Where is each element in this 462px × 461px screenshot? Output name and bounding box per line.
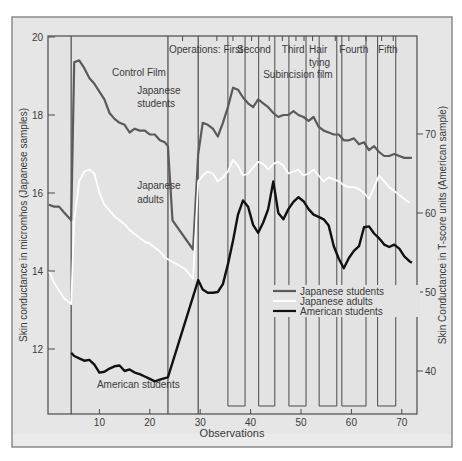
y-axis-label-right: Skin Conductance in T-score units (Ameri… — [437, 106, 448, 344]
annotation-label: Third — [282, 44, 305, 55]
y-tick-label-left: 12 — [32, 344, 44, 355]
annotation-label: students — [137, 98, 175, 109]
y-tick-label-left: 14 — [32, 266, 44, 277]
legend: Japanese studentsJapanese adultsAmerican… — [270, 285, 420, 317]
x-tick-label: 20 — [144, 417, 156, 428]
legend-label: American students — [300, 306, 383, 317]
y-tick-label-right: 40 — [425, 366, 437, 377]
x-tick-label: 70 — [396, 417, 408, 428]
annotation-label: adults — [137, 194, 164, 205]
y-tick-label-left: 16 — [32, 188, 44, 199]
chart-figure: Control FilmJapanesestudentsJapaneseadul… — [0, 0, 462, 461]
annotation-label: Second — [237, 44, 271, 55]
y-tick-label-right: 50 — [425, 287, 437, 298]
annotation-label: tying — [309, 57, 330, 68]
x-axis-label: Observations — [200, 427, 265, 439]
annotation-label: Fifth — [378, 44, 397, 55]
x-tick-label: 50 — [295, 417, 307, 428]
annotation-label: Japanese — [137, 85, 181, 96]
y-tick-label-left: 18 — [32, 110, 44, 121]
annotation-label: Subincision film — [263, 69, 332, 80]
annotation-label: Japanese — [137, 180, 181, 191]
y-tick-label-left: 20 — [32, 32, 44, 43]
annotation-label: American students — [97, 379, 180, 390]
annotation-label: Control Film — [112, 67, 166, 78]
y-tick-label-right: 60 — [425, 208, 437, 219]
x-tick-label: 60 — [346, 417, 358, 428]
y-axis-label-left: Skin conductance in micromhos (Japanese … — [18, 108, 29, 342]
annotation-label: Operations: First — [169, 44, 243, 55]
annotation-label: Fourth — [339, 44, 368, 55]
y-tick-label-right: 70 — [425, 129, 437, 140]
annotation-label: Hair — [309, 44, 328, 55]
x-tick-label: 10 — [94, 417, 106, 428]
